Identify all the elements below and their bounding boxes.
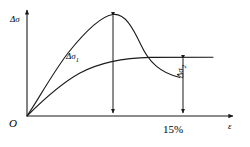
curve-delta-sigma-1 xyxy=(27,14,180,116)
figure-container: Δσ O ε 15% Δσ1 Δσ2 xyxy=(0,0,250,147)
curve-2-label: Δσ2 xyxy=(176,65,187,78)
origin-label: O xyxy=(9,118,17,129)
curve-1-label: Δσ1 xyxy=(66,52,79,63)
x-axis-label: ε xyxy=(228,122,232,131)
curve-1-label-subscript: 1 xyxy=(76,56,79,63)
x-axis-tick-label: 15% xyxy=(163,124,183,135)
y-axis-label: Δσ xyxy=(10,15,20,24)
curve-2-label-subscript: 2 xyxy=(180,65,187,68)
curve-2-label-base: Δσ xyxy=(175,68,185,78)
curve-1-label-base: Δσ xyxy=(66,51,76,61)
stress-strain-plot xyxy=(0,0,250,147)
